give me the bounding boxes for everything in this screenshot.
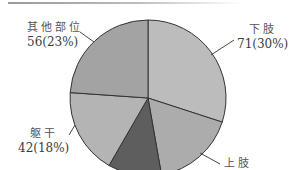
- label-xiazhi: 下肢 71(30%): [237, 23, 288, 51]
- label-xiazhi-name: 下肢: [237, 23, 288, 37]
- label-qita: 其他部位 56(23%): [27, 21, 83, 49]
- label-shangzhi: 上肢: [224, 157, 252, 170]
- label-qita-value: 56(23%): [27, 35, 83, 49]
- label-qugan-name: 躯干: [18, 127, 69, 141]
- label-shangzhi-name: 上肢: [224, 157, 252, 170]
- label-qita-name: 其他部位: [27, 21, 83, 35]
- leader-shangzhi: [200, 153, 220, 164]
- label-xiazhi-value: 71(30%): [237, 37, 288, 51]
- label-qugan-value: 42(18%): [18, 141, 69, 155]
- leader-xiazhi: [211, 40, 234, 55]
- label-qugan: 躯干 42(18%): [18, 127, 69, 155]
- leader-qugan: [69, 125, 75, 135]
